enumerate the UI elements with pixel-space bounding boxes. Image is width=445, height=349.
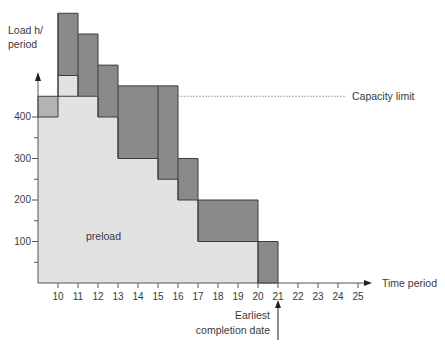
y-tick-label: 200 — [1, 194, 31, 205]
load-block — [78, 34, 98, 96]
capacity-limit-label: Capacity limit — [352, 90, 414, 102]
load-block — [258, 242, 278, 284]
load-block — [98, 65, 118, 117]
x-tick-label: 14 — [128, 291, 148, 302]
x-tick-label: 12 — [88, 291, 108, 302]
x-tick-label: 19 — [228, 291, 248, 302]
x-tick-label: 22 — [288, 291, 308, 302]
earliest-completion-label: Earliest completion date — [180, 308, 270, 338]
x-tick-label: 10 — [48, 291, 68, 302]
y-tick-label: 400 — [1, 111, 31, 122]
y-axis-label-line2: period — [8, 37, 43, 51]
x-tick-label: 24 — [328, 291, 348, 302]
x-tick-label: 21 — [268, 291, 288, 302]
preload-label: preload — [86, 230, 121, 242]
load-block — [38, 96, 58, 117]
y-axis-label: Load h/ period — [8, 23, 43, 51]
x-tick-label: 17 — [188, 291, 208, 302]
x-tick-label: 25 — [348, 291, 368, 302]
earliest-line2: completion date — [180, 323, 270, 338]
load-block — [178, 159, 198, 201]
load-block — [118, 86, 158, 159]
x-axis-arrow-icon — [364, 280, 372, 286]
y-axis-arrow-icon — [35, 72, 41, 81]
x-tick-label: 20 — [248, 291, 268, 302]
earliest-line1: Earliest — [180, 308, 270, 323]
load-block — [198, 200, 258, 242]
y-axis-label-line1: Load h/ — [8, 23, 43, 37]
y-tick-label: 300 — [1, 153, 31, 164]
x-tick-label: 18 — [208, 291, 228, 302]
x-tick-label: 13 — [108, 291, 128, 302]
x-tick-label: 16 — [168, 291, 188, 302]
load-block — [158, 86, 178, 179]
x-tick-label: 15 — [148, 291, 168, 302]
x-axis-title: Time period — [382, 277, 437, 289]
y-tick-label: 100 — [1, 236, 31, 247]
x-tick-label: 23 — [308, 291, 328, 302]
x-tick-label: 11 — [68, 291, 88, 302]
load-block — [58, 13, 78, 75]
